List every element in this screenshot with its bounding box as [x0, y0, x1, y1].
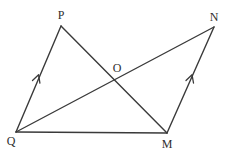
segment-MN — [167, 27, 214, 133]
label-O: O — [113, 62, 122, 74]
segment-QN — [16, 27, 214, 132]
diagram-lines — [0, 0, 225, 153]
label-N: N — [210, 11, 219, 23]
segment-QP — [16, 26, 61, 132]
label-Q: Q — [7, 135, 16, 147]
geometry-diagram: P N O Q M — [0, 0, 225, 153]
label-P: P — [58, 9, 65, 21]
parallel-arrow-icon-QP — [33, 75, 40, 83]
segment-QM — [16, 132, 167, 133]
label-M: M — [162, 138, 173, 150]
